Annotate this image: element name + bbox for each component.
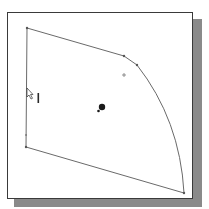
vertical-relation-icon xyxy=(38,93,40,103)
vertex-point[interactable] xyxy=(123,55,125,57)
sketch-line-bottom[interactable] xyxy=(26,147,184,193)
vertex-point[interactable] xyxy=(183,192,185,194)
sketch-line-top[interactable] xyxy=(27,28,124,56)
vertex-point[interactable] xyxy=(136,64,138,66)
sketch-line-fillet[interactable] xyxy=(124,56,137,65)
pointer-arrow-icon xyxy=(27,88,33,99)
vertex-point[interactable] xyxy=(25,146,27,148)
vertex-point[interactable] xyxy=(26,27,28,29)
vertex-point[interactable] xyxy=(25,134,27,136)
sketch-profile[interactable] xyxy=(26,28,184,193)
arc-center-mark-icon xyxy=(122,73,126,77)
sketch-arc-right[interactable] xyxy=(137,65,184,193)
sketch-origin-icon[interactable] xyxy=(97,104,105,112)
sketch-canvas[interactable] xyxy=(0,0,209,209)
sketch-vertices[interactable] xyxy=(25,27,185,194)
